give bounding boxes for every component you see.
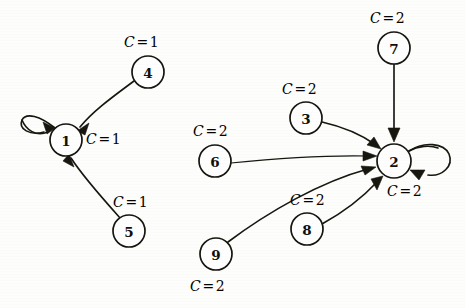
cost-label-node-8: C=2 [290,192,325,208]
cost-label-node-8-value: 2 [316,192,325,208]
edge-3-to-2-arrowhead [367,137,381,149]
node-3-label: 3 [301,111,310,127]
edge-9-to-2-arrowhead [361,166,376,175]
edge-6-to-2 [231,151,377,163]
edge-2-to-2 [409,145,450,180]
edge-8-to-2-arrowhead [371,176,383,190]
cost-label-node-6-var: C [193,123,204,139]
cost-label-node-6: C=2 [193,123,228,139]
node-8-label: 8 [302,222,311,238]
edge-3-to-2-path [322,122,376,145]
cost-label-node-4: C=1 [124,34,159,50]
graph-canvas: 1 4 5 [0,0,465,308]
edge-2-to-2-path-inner [409,146,438,151]
cost-label-node-3-var: C [282,81,293,97]
cost-label-node-1-eq: = [98,131,110,147]
cost-label-node-7: C=2 [370,10,405,26]
cost-label-node-9-eq: = [202,278,214,294]
cost-label-node-5-eq: = [125,194,137,210]
node-6-label: 6 [210,154,219,170]
cost-label-node-8-eq: = [302,192,314,208]
edge-4-to-1 [77,81,134,135]
cost-label-node-2: C=2 [387,183,422,199]
cost-label-node-5-value: 1 [139,194,148,210]
node-8[interactable]: 8 [291,213,323,245]
node-4[interactable]: 4 [132,56,164,88]
node-4-label: 4 [143,65,152,81]
node-3[interactable]: 3 [290,102,322,134]
node-6[interactable]: 6 [199,145,231,177]
cost-label-node-4-value: 1 [150,34,159,50]
cost-label-node-2-value: 2 [413,183,422,199]
edge-7-to-2 [388,64,400,142]
cost-label-node-2-var: C [387,183,398,199]
edge-7-to-2-arrowhead [388,128,400,142]
cost-label-node-9-value: 2 [216,278,225,294]
node-7[interactable]: 7 [378,32,410,64]
cost-label-node-7-var: C [370,10,381,26]
node-9-label: 9 [211,247,220,263]
node-5[interactable]: 5 [113,215,145,247]
node-1[interactable]: 1 [50,124,82,156]
node-1-label: 1 [61,133,70,149]
cost-label-node-3-value: 2 [308,81,317,97]
cost-label-node-8-var: C [290,192,301,208]
node-9[interactable]: 9 [200,238,232,270]
edge-8-to-2 [322,176,383,224]
cost-label-node-9: C=2 [190,278,225,294]
cost-label-node-3: C=2 [282,81,317,97]
edge-4-to-1-path [80,81,134,127]
cost-label-node-7-eq: = [382,10,394,26]
cost-label-node-4-eq: = [136,34,148,50]
edge-2-to-2-arrowhead [410,170,425,180]
node-2-label: 2 [389,154,398,170]
cost-label-node-5: C=1 [113,194,148,210]
edge-6-to-2-path [231,156,370,163]
graph-figure: 1 4 5 [0,0,465,308]
cost-label-node-3-eq: = [294,81,306,97]
edge-8-to-2-path [322,181,378,224]
edge-3-to-2 [322,122,381,149]
cost-label-node-9-var: C [190,278,201,294]
cost-label-node-5-var: C [113,194,124,210]
cost-label-node-6-eq: = [205,123,217,139]
node-2[interactable]: 2 [377,144,411,178]
edge-1-to-1 [21,116,55,134]
cost-label-node-4-var: C [124,34,135,50]
edge-6-to-2-arrowhead [363,151,377,161]
cost-label-node-7-value: 2 [396,10,405,26]
cost-label-node-1: C=1 [86,131,121,147]
cost-label-node-6-value: 2 [219,123,228,139]
cost-label-node-1-var: C [86,131,97,147]
cost-label-node-2-eq: = [399,183,411,199]
node-7-label: 7 [389,41,398,57]
cost-label-node-1-value: 1 [112,131,121,147]
node-5-label: 5 [124,224,133,240]
